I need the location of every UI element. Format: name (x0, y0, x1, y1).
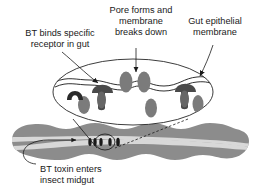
bt-toxin-diagram: BT binds specific receptor in gut Pore f… (0, 0, 256, 192)
insect-midgut-tube (10, 123, 252, 160)
midgut-line1: BT toxin enters (40, 164, 102, 174)
toxin-blob-2 (120, 72, 133, 93)
pore-line2: membrane (119, 16, 163, 26)
diagram-canvas: BT binds specific receptor in gut Pore f… (0, 0, 256, 192)
label-bt-binds-receptor: BT binds specific receptor in gut (25, 28, 95, 49)
label-gut-epithelial-membrane: Gut epithelial membrane (188, 16, 242, 37)
toxin-blob-4 (145, 99, 157, 118)
epithelial-line2: membrane (193, 27, 237, 37)
pore-line3: breaks down (115, 27, 167, 37)
pore-line1: Pore forms and (110, 5, 173, 15)
toxin-blob-3 (138, 72, 151, 93)
leader-epithelial-to-membrane (200, 45, 213, 76)
bt-binds-line1: BT binds specific (25, 28, 95, 38)
gut-epithelial-cell-magnified (53, 59, 215, 125)
midgut-line2: insect midgut (40, 175, 95, 185)
bt-binds-line2: receptor in gut (31, 39, 90, 49)
toxin-blob-5 (193, 95, 204, 113)
label-pore-forms: Pore forms and membrane breaks down (110, 5, 173, 37)
label-bt-toxin-enters-midgut: BT toxin enters insect midgut (40, 164, 102, 185)
epithelial-line1: Gut epithelial (188, 16, 242, 26)
